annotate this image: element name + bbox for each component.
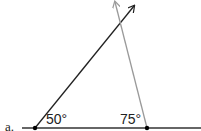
part-label: a. bbox=[5, 120, 14, 131]
right-ray-arrow bbox=[115, 2, 147, 128]
angle-label-left: 50° bbox=[46, 112, 67, 126]
left-vertex-point bbox=[33, 126, 37, 130]
angle-label-right: 75° bbox=[120, 112, 141, 126]
angle-diagram bbox=[0, 0, 201, 131]
left-ray-arrow bbox=[35, 6, 134, 128]
right-vertex-point bbox=[145, 126, 149, 130]
